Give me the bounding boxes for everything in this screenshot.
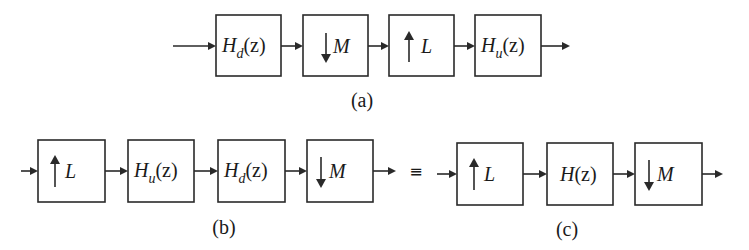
block-label: H [133, 159, 150, 181]
block-c-h-filter: H(z) [547, 143, 613, 205]
block-label: L [64, 160, 76, 182]
arrowhead-icon [627, 170, 635, 178]
row-b: L Hu(z) Hd(z) M (b) [21, 140, 396, 239]
arrowhead-icon [715, 170, 723, 178]
block-label: M [332, 35, 351, 57]
block-label: M [656, 163, 675, 185]
arrowhead-icon [299, 167, 307, 175]
arrowhead-icon [388, 167, 396, 175]
arrowhead-icon [562, 42, 570, 50]
block-a-downsampler: M [303, 15, 368, 76]
block-b-hd-filter: Hd(z) [218, 140, 285, 202]
block-label: H [480, 34, 497, 56]
block-label: H [221, 34, 238, 56]
block-subscript: u [148, 171, 155, 186]
multirate-diagram: Hd(z) M L Hu(z) (a) [0, 0, 749, 250]
arrowhead-icon [30, 167, 38, 175]
block-label: H [223, 159, 240, 181]
block-arg: (z) [574, 163, 596, 186]
block-c-downsampler: M [635, 143, 702, 205]
arrowhead-icon [467, 42, 475, 50]
svg-text:H(z): H(z) [559, 163, 597, 186]
block-b-downsampler: M [307, 140, 373, 202]
arrowhead-icon [295, 42, 303, 50]
equivalence-symbol: ≡ [409, 162, 422, 181]
caption-b: (b) [212, 216, 235, 239]
block-a-hd-filter: Hd(z) [216, 15, 281, 76]
row-a: Hd(z) M L Hu(z) (a) [173, 15, 570, 112]
arrowhead-icon [449, 170, 457, 178]
block-label: L [420, 35, 432, 57]
block-arg: (z) [502, 34, 524, 57]
row-c: L H(z) M (c) [437, 143, 723, 241]
arrowhead-icon [539, 170, 547, 178]
arrowhead-icon [120, 167, 128, 175]
caption-c: (c) [556, 218, 578, 241]
block-arg: (z) [155, 159, 177, 182]
block-label: H [559, 163, 576, 185]
block-label: L [483, 163, 495, 185]
block-subscript: u [495, 46, 502, 61]
block-a-upsampler: L [389, 15, 454, 76]
block-b-hu-filter: Hu(z) [128, 140, 194, 202]
caption-a: (a) [351, 89, 373, 112]
block-a-hu-filter: Hu(z) [475, 15, 541, 76]
block-b-upsampler: L [38, 140, 105, 202]
block-label: M [328, 160, 347, 182]
arrowhead-icon [210, 167, 218, 175]
block-c-upsampler: L [457, 143, 523, 205]
block-arg: (z) [243, 34, 265, 57]
arrowhead-icon [381, 42, 389, 50]
block-arg: (z) [245, 159, 267, 182]
arrowhead-icon [208, 42, 216, 50]
